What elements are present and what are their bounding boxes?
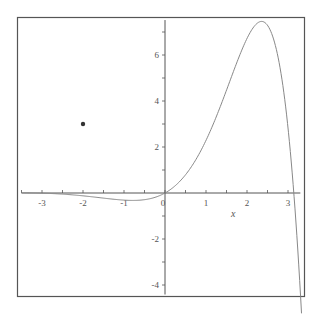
axes — [22, 20, 301, 294]
ticks: -3-2-10123-4-2246 — [22, 32, 291, 290]
plot-frame — [18, 18, 305, 297]
x-tick-label: 1 — [204, 198, 209, 208]
x-tick-label: -3 — [38, 198, 46, 208]
x-axis-label: x — [230, 208, 236, 219]
y-tick-label: -4 — [152, 280, 160, 290]
x-tick-label: 0 — [161, 198, 166, 208]
y-tick-label: 6 — [155, 50, 160, 60]
data-point — [81, 122, 85, 126]
y-tick-label: 4 — [155, 96, 160, 106]
y-tick-label: 2 — [155, 142, 160, 152]
function-curve — [22, 21, 302, 313]
y-tick-label: -2 — [152, 234, 160, 244]
plot-area: -3-2-10123-4-2246 x — [0, 0, 323, 315]
x-tick-label: -2 — [79, 198, 87, 208]
x-tick-label: 2 — [245, 198, 250, 208]
x-tick-label: 3 — [286, 198, 291, 208]
